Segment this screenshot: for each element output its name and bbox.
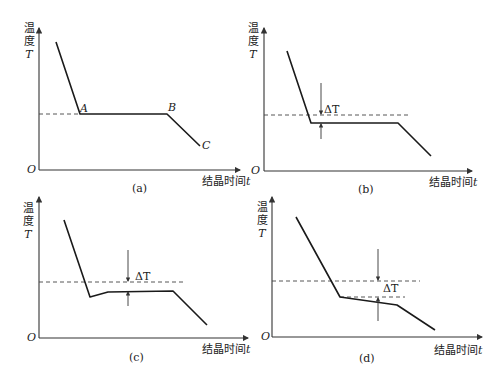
x-label-var: t [246,175,250,188]
y-label-char-2: 度 [255,214,269,227]
y-axis-label: 温 度 T [246,22,260,61]
panel-b [264,28,472,171]
delta-t-label: ΔT [383,283,398,295]
cooling-curve [56,42,200,146]
y-axis-label: 温 度 T [255,201,269,240]
point-c-label: C [202,140,210,152]
x-axis-label: 结晶时间t [202,176,250,188]
caption-a: (a) [132,183,147,195]
y-label-char-2: 度 [22,35,36,48]
y-label-var: T [246,48,260,61]
delta-t-label: ΔT [135,271,150,283]
y-label-char-2: 度 [21,215,35,228]
y-label-char-1: 温 [246,22,260,35]
caption-b: (b) [358,184,374,196]
origin-label: O [27,164,36,176]
x-label-text: 结晶时间 [434,344,478,357]
x-label-text: 结晶时间 [202,343,246,356]
x-axis-label: 结晶时间t [202,344,250,356]
x-label-var: t [478,344,482,357]
cooling-curve [296,217,435,330]
y-label-char-2: 度 [246,35,260,48]
y-label-var: T [255,227,269,240]
x-label-text: 结晶时间 [202,175,246,188]
x-label-var: t [473,176,477,189]
y-label-var: T [22,48,36,61]
y-axis-label: 温 度 T [21,202,35,241]
x-axis-label: 结晶时间t [434,345,482,357]
delta-t-label: ΔT [324,104,339,116]
y-label-char-1: 温 [21,202,35,215]
y-label-char-1: 温 [22,22,36,35]
origin-label: O [27,332,36,344]
panel-d [272,197,482,337]
y-label-char-1: 温 [255,201,269,214]
caption-c: (c) [129,352,144,364]
cooling-curve [287,51,431,156]
point-b-label: B [168,102,176,114]
y-axis-label: 温 度 T [22,22,36,61]
y-label-var: T [21,228,35,241]
x-label-var: t [246,343,250,356]
panel-c [39,197,248,338]
point-a-label: A [80,103,88,115]
caption-d: (d) [359,353,375,365]
x-axis-label: 结晶时间t [429,177,477,189]
origin-label: O [251,165,260,177]
x-label-text: 结晶时间 [429,176,473,189]
origin-label: O [261,331,270,343]
